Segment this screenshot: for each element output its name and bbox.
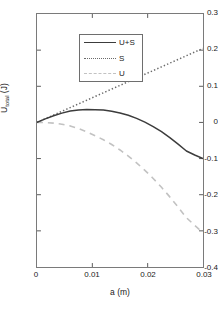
y-axis-label: Utotal (J) [0,3,10,113]
series-line-u [37,122,203,232]
x-tick-label: 0.02 [128,271,168,279]
legend-label-u: U [119,69,125,79]
legend-swatch-s [84,58,116,61]
x-tick-label: 0 [16,271,56,279]
figure: 0.3 0.2 0.1 0 -0.1 -0.2 -0.3 -0.4 0 0.01… [0,0,218,310]
legend-entry-s: S [80,51,144,67]
x-axis-label: a (m) [36,287,204,297]
legend-label-s: S [119,54,124,64]
y-axis-label-base: U [0,107,9,113]
legend: U+S S U [79,34,143,82]
x-tick-label: 0.01 [72,271,112,279]
series-line-u-plus-s [37,110,203,159]
legend-swatch-u [84,73,116,76]
y-axis-label-unit: (J) [0,83,9,95]
plot-area: U+S S U [36,13,204,268]
legend-entry-u-plus-s: U+S [80,35,144,51]
legend-swatch-u-plus-s [84,42,116,45]
x-tick-label: 0.03 [184,271,218,279]
legend-entry-u: U [80,66,144,82]
y-axis-label-subscript: total [4,96,10,107]
legend-label-u-plus-s: U+S [119,38,135,48]
